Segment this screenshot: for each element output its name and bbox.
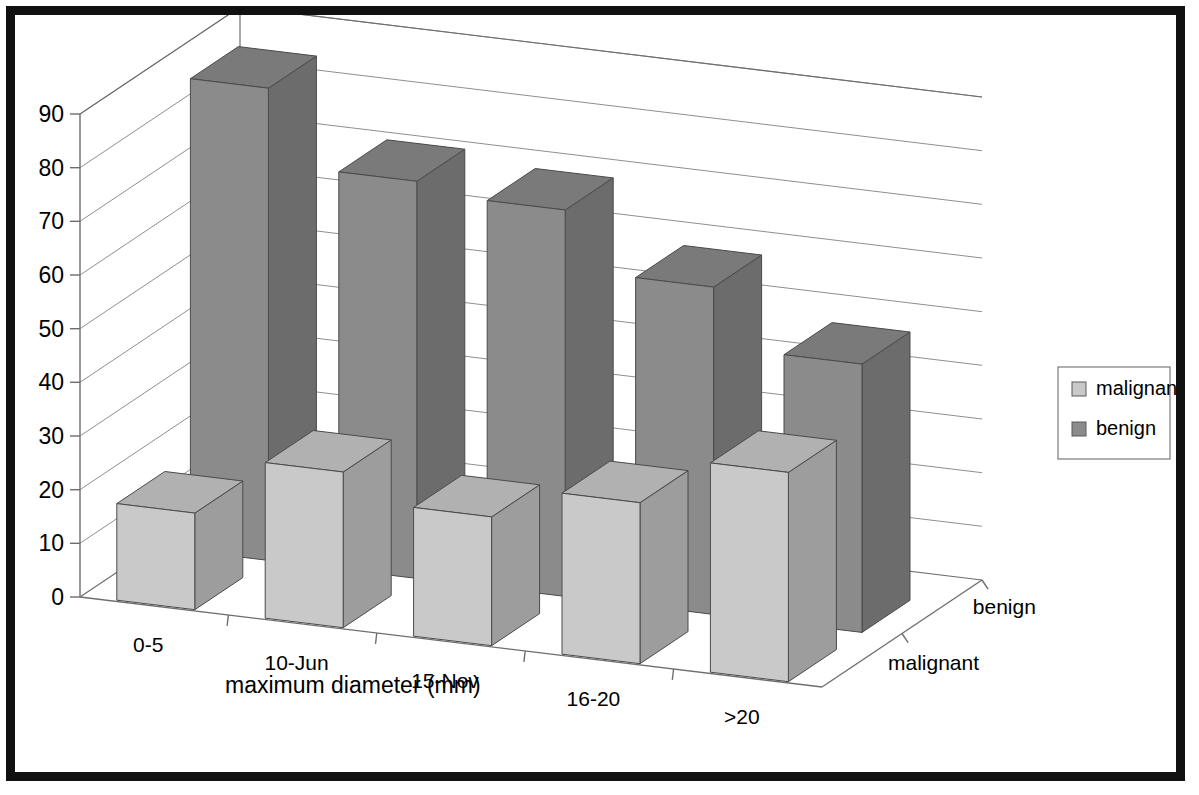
y-axis-tick-label: 20 [38,477,64,503]
bar-malignant-16-20 [562,461,688,664]
y-axis-tick-label: 80 [38,155,64,181]
bar-chart-3d: 0102030405060708090 0-510-Jun15-Nov16-20… [15,15,1176,772]
bar-front-face [562,493,640,664]
bar-side-face [640,471,688,664]
bar-front-face [265,463,343,628]
x-axis-category-label: >20 [724,705,760,728]
x-axis-title: maximum diameter (mm) [225,672,481,698]
chart-canvas: 0102030405060708090 0-510-Jun15-Nov16-20… [15,15,1176,772]
depth-axis-label-benign: benign [973,595,1036,618]
bar-malignant-15-Nov [414,475,540,645]
depth-axis-tick [902,634,908,643]
bar-side-face [862,332,910,632]
depth-axis-tick [982,580,988,589]
y-axis-tick-label: 50 [38,316,64,342]
legend-label-benign: benign [1096,417,1156,439]
bar-front-face [414,507,492,645]
x-axis-category-label: 0-5 [133,633,163,656]
x-axis-category-label: 10-Jun [264,651,328,674]
y-axis-tick-label: 70 [38,208,64,234]
bar-malignant->20 [710,431,836,682]
bar-side-face [788,440,836,681]
legend-swatch-malignant [1072,382,1086,396]
legend-swatch-benign [1072,422,1086,436]
bar-side-face [343,440,391,628]
x-axis-tick [227,615,228,626]
x-axis-tick [524,651,525,662]
y-axis-tick-labels: 0102030405060708090 [38,101,64,610]
x-axis-category-label: 16-20 [567,687,621,710]
y-axis-tick-label: 40 [38,369,64,395]
chart-frame-border: 0102030405060708090 0-510-Jun15-Nov16-20… [6,6,1185,781]
y-axis-tick-label: 30 [38,423,64,449]
x-axis-tick [376,633,377,644]
chart-page: 0102030405060708090 0-510-Jun15-Nov16-20… [0,0,1199,795]
depth-axis-label-malignant: malignant [888,651,979,674]
bar-malignant-10-Jun [265,431,391,628]
y-axis-tick-label: 90 [38,101,64,127]
y-axis-tick-label: 60 [38,262,64,288]
chart-legend: malignantbenign [1058,367,1176,459]
x-axis-tick [672,669,673,680]
bar-front-face [710,463,788,682]
y-axis-tick-label: 10 [38,530,64,556]
legend-label-malignant: malignant [1096,377,1176,399]
bar-front-face [117,504,195,610]
y-axis-tick-label: 0 [51,584,64,610]
bar-malignant-0-5 [117,472,243,610]
